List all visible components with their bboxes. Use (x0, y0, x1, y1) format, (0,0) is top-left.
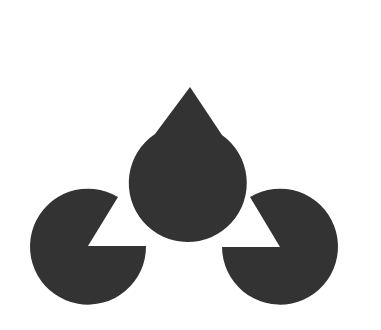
kanizsa-triangle-figure (0, 0, 381, 330)
pacman-top (129, 87, 247, 242)
pacman-bottom-left (30, 189, 146, 305)
